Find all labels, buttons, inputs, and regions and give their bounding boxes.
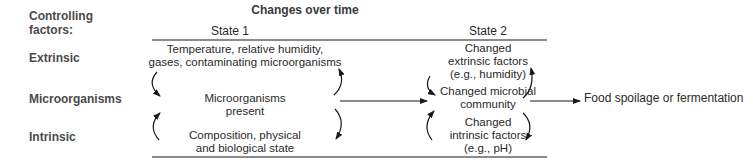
curved-arrow-icon bbox=[523, 68, 532, 98]
curved-arrow-icon bbox=[335, 109, 341, 139]
curved-arrow-icon bbox=[153, 113, 160, 140]
curved-arrow-icon bbox=[427, 76, 435, 95]
curved-arrow-icon bbox=[334, 69, 342, 95]
curved-arrow-icon bbox=[427, 111, 434, 140]
arrows-layer bbox=[0, 0, 753, 162]
curved-arrow-icon bbox=[152, 72, 160, 96]
curved-arrow-icon bbox=[523, 113, 530, 140]
